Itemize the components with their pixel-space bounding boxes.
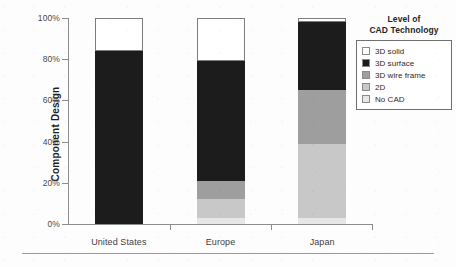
y-axis-tick-mark <box>62 59 68 60</box>
bar-segment-3d-solid[interactable] <box>95 18 143 51</box>
plot-area: 100%80%60%40%20%0% United StatesEuropeJa… <box>68 18 373 225</box>
legend: Level of CAD Technology 3D solid3D surfa… <box>356 14 452 110</box>
chart-figure: Component Design 100%80%60%40%20%0% Unit… <box>0 0 456 267</box>
bar-united-states[interactable] <box>95 18 143 224</box>
legend-title: Level of CAD Technology <box>356 14 452 36</box>
y-axis-tick-mark <box>62 183 68 184</box>
y-axis-tick-label: 80% <box>43 54 60 64</box>
y-axis-line <box>68 18 69 225</box>
footer-divider <box>22 253 434 254</box>
y-axis-tick-label: 20% <box>43 178 60 188</box>
bar-segment-3d-surface[interactable] <box>95 51 143 224</box>
legend-item-label: 2D <box>375 83 385 92</box>
x-axis-label-united-states: United States <box>91 237 146 247</box>
bar-segment-2d[interactable] <box>197 199 245 218</box>
legend-item-no-cad[interactable]: No CAD <box>362 93 447 105</box>
legend-item-label: No CAD <box>375 95 405 104</box>
legend-item-2d[interactable]: 2D <box>362 81 447 93</box>
x-axis-tick-mark <box>372 225 373 230</box>
x-axis-label-japan: Japan <box>310 237 335 247</box>
legend-item-label: 3D wire frame <box>375 71 425 80</box>
y-axis-tick-mark <box>62 142 68 143</box>
bar-japan[interactable] <box>298 18 346 224</box>
bar-segment-3d-wire-frame[interactable] <box>197 181 245 200</box>
y-axis-tick-label: 0% <box>48 219 61 229</box>
legend-item-3d-surface[interactable]: 3D surface <box>362 57 447 69</box>
bar-segment-2d[interactable] <box>298 144 346 218</box>
swatch-3d-solid-icon <box>362 47 370 55</box>
swatch-3d-wire-frame-icon <box>362 71 370 79</box>
legend-box: 3D solid3D surface3D wire frame2DNo CAD <box>356 40 452 110</box>
x-axis-tick-mark <box>170 225 171 230</box>
bar-segment-3d-solid[interactable] <box>298 18 346 22</box>
legend-item-3d-wire-frame[interactable]: 3D wire frame <box>362 69 447 81</box>
y-axis-tick-label: 40% <box>43 137 60 147</box>
y-axis-tick-mark <box>62 18 68 19</box>
bar-segment-no-cad[interactable] <box>298 218 346 224</box>
x-axis-label-europe: Europe <box>206 237 236 247</box>
legend-title-line-2: CAD Technology <box>356 25 452 36</box>
legend-item-label: 3D solid <box>375 47 404 56</box>
bar-segment-no-cad[interactable] <box>197 218 245 224</box>
bar-europe[interactable] <box>197 18 245 224</box>
legend-title-line-1: Level of <box>356 14 452 25</box>
x-axis-line <box>68 224 373 225</box>
x-axis-tick-mark <box>271 225 272 230</box>
bar-segment-3d-surface[interactable] <box>298 22 346 90</box>
swatch-3d-surface-icon <box>362 59 370 67</box>
swatch-2d-icon <box>362 83 370 91</box>
y-axis-tick-mark <box>62 224 68 225</box>
legend-item-3d-solid[interactable]: 3D solid <box>362 45 447 57</box>
y-axis-tick-label: 60% <box>43 95 60 105</box>
bar-segment-3d-solid[interactable] <box>197 18 245 61</box>
swatch-no-cad-icon <box>362 95 370 103</box>
bar-segment-3d-surface[interactable] <box>197 61 245 180</box>
legend-item-label: 3D surface <box>375 59 414 68</box>
y-axis-tick-mark <box>62 100 68 101</box>
y-axis-tick-label: 100% <box>38 13 60 23</box>
bar-segment-3d-wire-frame[interactable] <box>298 90 346 144</box>
